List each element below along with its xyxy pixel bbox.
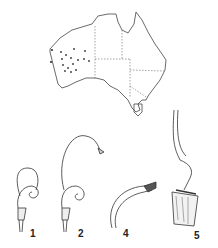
panel-label-5: 5	[194, 230, 200, 241]
drawing-2	[62, 136, 104, 232]
drawing-1	[17, 168, 38, 232]
panel-label-2: 2	[78, 228, 84, 239]
panel-label-1: 1	[30, 228, 36, 239]
australia-outline	[50, 12, 166, 112]
drawing-5	[172, 110, 198, 226]
occurrence-points	[50, 48, 90, 73]
drawing-4	[111, 182, 156, 228]
australia-map	[0, 0, 218, 248]
tasmania-outline	[134, 104, 142, 116]
panel-label-4: 4	[123, 228, 129, 239]
